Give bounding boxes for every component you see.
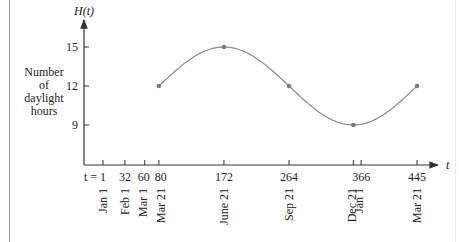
x-date-label: Mar 21	[154, 188, 168, 223]
x-tick-label: 172	[215, 170, 233, 184]
x-tick-label: 366	[352, 170, 370, 184]
x-date-label: June 21	[217, 188, 231, 225]
y-ticks: 91215	[66, 40, 89, 132]
y-tick-label: 9	[72, 118, 78, 132]
x-tick-label: 80	[155, 170, 167, 184]
x-tick-label: 32	[119, 170, 131, 184]
x-tick-label: 445	[408, 170, 426, 184]
y-axis-title: H(t)	[73, 4, 94, 18]
axes	[84, 20, 438, 165]
side-label-line: hours	[31, 104, 58, 118]
x-tick-label: 60	[138, 170, 150, 184]
y-tick-label: 15	[66, 40, 78, 54]
x-ticks: t = 1Jan 132Feb 160Mar 180Mar 21172June …	[84, 160, 426, 225]
x-date-label: Sep 21	[282, 188, 296, 221]
data-point	[351, 123, 356, 128]
side-label-line: daylight	[24, 91, 64, 105]
side-label-line: Number	[24, 65, 63, 79]
data-point	[287, 84, 292, 89]
x-date-label: Mar 1	[136, 188, 150, 217]
data-point	[415, 84, 420, 89]
x-axis-title: t	[446, 158, 450, 172]
data-points	[157, 45, 420, 128]
x-date-label: Feb 1	[118, 188, 132, 215]
x-date-label: Jan 1	[96, 188, 110, 213]
y-tick-label: 12	[66, 79, 78, 93]
x-tick-label: t = 1	[84, 170, 106, 184]
x-date-label: Mar 21	[410, 188, 424, 223]
y-axis-side-label: Numberofdaylighthours	[24, 65, 64, 118]
daylight-hours-chart: H(t) t Numberofdaylighthours 91215 t = 1…	[0, 0, 459, 242]
side-label-line: of	[39, 78, 49, 92]
x-date-label: Jan 1	[352, 188, 366, 213]
x-tick-label: 264	[280, 170, 298, 184]
data-point	[222, 45, 227, 50]
data-point	[157, 84, 162, 89]
